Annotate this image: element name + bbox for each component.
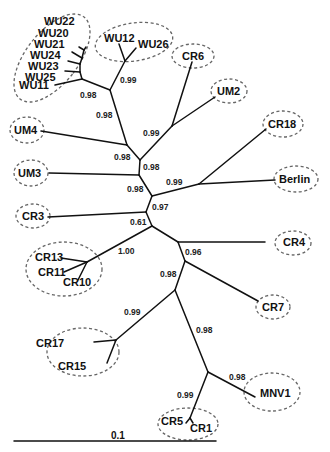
support-value: 0.97 xyxy=(152,202,169,212)
support-value: 1.00 xyxy=(118,246,135,256)
support-value: 0.98 xyxy=(160,269,177,279)
tip-label-cr5: CR5 xyxy=(161,415,183,427)
support-value: 0.98 xyxy=(196,325,213,335)
tip-label-berlin: Berlin xyxy=(279,173,310,185)
phylogenetic-tree-figure: WU22 WU20 WU21 WU24 WU23 WU25 WU11 WU12 … xyxy=(0,0,330,452)
tip-label-cr18: CR18 xyxy=(268,118,296,130)
support-value: 0.96 xyxy=(185,247,202,257)
tip-label-um3: UM3 xyxy=(18,167,41,179)
support-value: 0.99 xyxy=(124,307,141,317)
support-value: 0.98 xyxy=(229,372,246,382)
tip-label-cr11: CR11 xyxy=(38,266,66,278)
support-value: 0.99 xyxy=(177,390,194,400)
tip-label-mnv1: MNV1 xyxy=(260,387,291,399)
support-value: 0.98 xyxy=(127,184,144,194)
tip-label-um2: UM2 xyxy=(217,85,240,97)
tip-label-cr13: CR13 xyxy=(35,251,63,263)
tip-labels: WU22 WU20 WU21 WU24 WU23 WU25 WU11 WU12 … xyxy=(14,15,310,434)
support-value: 0.98 xyxy=(96,110,113,120)
tip-label-cr7: CR7 xyxy=(262,301,284,313)
tip-label-cr3: CR3 xyxy=(22,210,44,222)
tip-label-wu12: WU12 xyxy=(104,32,135,44)
tip-label-wu26: WU26 xyxy=(138,38,169,50)
support-value: 0.99 xyxy=(143,128,160,138)
tip-label-wu11: WU11 xyxy=(19,79,49,91)
tip-label-cr1: CR1 xyxy=(190,422,212,434)
tip-label-um4: UM4 xyxy=(14,124,38,136)
tip-label-wu22: WU22 xyxy=(44,15,75,27)
tip-label-cr6: CR6 xyxy=(182,50,204,62)
tip-label-cr17: CR17 xyxy=(36,337,64,349)
support-value: 0.99 xyxy=(120,75,137,85)
support-value: 0.98 xyxy=(114,152,131,162)
support-value: 0.98 xyxy=(80,90,97,100)
tip-label-cr10: CR10 xyxy=(63,276,91,288)
support-value: 0.98 xyxy=(143,162,160,172)
scale-bar-label: 0.1 xyxy=(111,430,125,441)
tree-canvas: WU22 WU20 WU21 WU24 WU23 WU25 WU11 WU12 … xyxy=(0,0,330,452)
support-values: 0.99 0.98 0.98 0.99 0.98 0.98 0.98 0.99 … xyxy=(80,75,246,400)
support-value: 0.61 xyxy=(130,217,147,227)
support-value: 0.99 xyxy=(166,177,183,187)
tip-label-cr4: CR4 xyxy=(283,236,306,248)
tip-label-cr15: CR15 xyxy=(58,360,86,372)
